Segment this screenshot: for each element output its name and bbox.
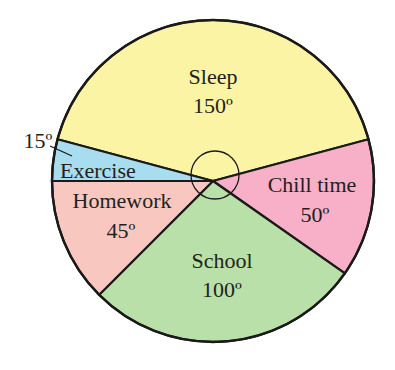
label-homework-name: Homework — [73, 188, 172, 213]
label-school-name: School — [191, 248, 252, 273]
label-chill-name: Chill time — [268, 172, 357, 197]
pie-chart: Sleep 150º Chill time 50º School 100º Ho… — [0, 0, 395, 370]
label-sleep-name: Sleep — [189, 64, 238, 89]
label-exercise-name: Exercise — [60, 158, 136, 183]
label-exercise-value: 15º — [24, 128, 53, 153]
label-sleep-value: 150º — [193, 93, 233, 118]
label-school-value: 100º — [202, 277, 242, 302]
label-homework-value: 45º — [107, 218, 136, 243]
label-chill-value: 50º — [301, 202, 330, 227]
